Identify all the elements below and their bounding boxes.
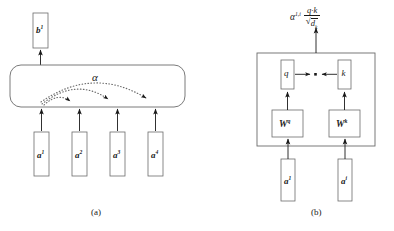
- attention-module-label: α: [92, 72, 98, 83]
- output-label-b1: b1: [36, 25, 43, 35]
- dot-product-node: [314, 73, 317, 76]
- panel-a-caption: (a): [91, 207, 101, 217]
- key-label-k: k: [342, 69, 346, 78]
- input-label-a3: a3: [113, 150, 120, 160]
- input-label-b-a1: a1: [284, 176, 291, 186]
- sqrt-group: √ dk: [306, 17, 319, 30]
- radicand: dk: [311, 18, 319, 30]
- input-label-a2: a2: [75, 150, 82, 160]
- figure-vector-layer: [0, 0, 394, 231]
- weight-label-wk: Wk: [336, 119, 347, 130]
- formula-denominator: √ dk: [304, 16, 321, 29]
- input-label-a4: a4: [151, 150, 158, 160]
- input-label-a1: a1: [37, 150, 44, 160]
- formula-alpha: α1,i: [290, 12, 301, 23]
- weight-label-wq: Wq: [279, 119, 290, 130]
- query-label-q: q: [284, 69, 289, 78]
- formula-fraction: q·k √ dk: [304, 6, 321, 29]
- formula-numerator: q·k: [305, 6, 319, 15]
- input-label-b-ai: ai: [341, 176, 347, 186]
- attention-mechanism-figure: b1 α a1 a2 a3 a4 (a) α1,i q·k √ dk: [0, 0, 394, 231]
- panel-b-caption: (b): [311, 207, 322, 217]
- attention-score-formula: α1,i q·k √ dk: [290, 6, 320, 29]
